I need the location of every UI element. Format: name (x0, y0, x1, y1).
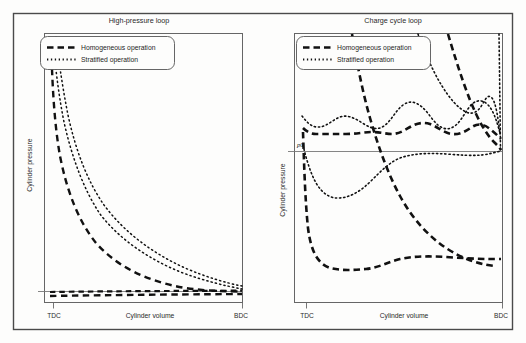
xtick-tdc-right: TDC (300, 312, 314, 319)
legend-left: Homogeneous operation Stratified operati… (41, 37, 175, 70)
engine-pressure-volume-figure: High-pressure loop TDC BDC Cylinder volu… (0, 0, 526, 343)
yaxis-label-left: Cylinder pressure (26, 138, 34, 191)
panel-title-high-pressure: High-pressure loop (109, 16, 170, 25)
xaxis-label-left: Cylinder volume (126, 312, 175, 320)
xaxis-label-right: Cylinder volume (380, 312, 429, 320)
legend-box-left (41, 37, 175, 70)
yaxis-label-right: Cylinder pressure (279, 163, 287, 216)
legend-right: Homogeneous operation Stratified operati… (297, 37, 431, 70)
legend-label-stratified-left: Stratified operation (81, 56, 138, 64)
xtick-bdc-left: BDC (234, 312, 248, 319)
legend-label-homogeneous-left: Homogeneous operation (81, 44, 156, 52)
panel-title-charge-cycle: Charge cycle loop (364, 16, 422, 25)
legend-label-stratified-right: Stratified operation (337, 56, 394, 64)
curve-homogeneous-mid-left (50, 291, 242, 292)
figure-root: High-pressure loop TDC BDC Cylinder volu… (0, 0, 526, 343)
xtick-tdc-left: TDC (47, 312, 61, 319)
legend-label-homogeneous-right: Homogeneous operation (337, 44, 412, 52)
xtick-bdc-right: BDC (494, 312, 508, 319)
legend-box-right (297, 37, 431, 70)
